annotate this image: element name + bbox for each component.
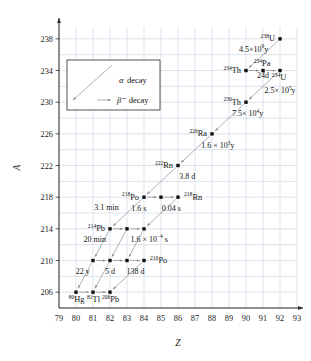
nuclide-label-226Ra: 226Ra — [189, 128, 207, 138]
nuclide-label-81Tl: 81Tl — [87, 294, 101, 304]
half-life-label: 1.6 × 10−4 s — [130, 233, 167, 243]
data-point — [142, 259, 145, 262]
legend: αdecayβ⁻decay — [67, 60, 160, 110]
x-tick-90: 90 — [242, 314, 250, 323]
half-life-label: 22 y — [76, 267, 90, 276]
x-tick-92: 92 — [276, 314, 284, 323]
x-tick-91: 91 — [259, 314, 267, 323]
data-point — [142, 195, 145, 198]
y-tick-218: 218 — [41, 193, 53, 202]
y-tick-214: 214 — [41, 225, 54, 234]
data-point — [91, 259, 94, 262]
x-tick-83: 83 — [123, 314, 131, 323]
legend-alpha-label: αdecay — [119, 75, 148, 85]
y-axis-title: A — [12, 164, 22, 171]
y-tick-226: 226 — [41, 130, 53, 139]
decay-arrow-alpha — [147, 168, 176, 195]
data-point — [74, 290, 77, 293]
half-life-label: 20 min — [83, 235, 105, 244]
nuclide-label-206Pb: 206Pb — [102, 294, 119, 304]
half-life-label: 4.5×109y — [239, 43, 268, 53]
x-tick-81: 81 — [89, 314, 97, 323]
x-tick-85: 85 — [157, 314, 165, 323]
x-tick-87: 87 — [191, 314, 199, 323]
data-point — [244, 69, 247, 72]
nuclide-label-230Th: 230Th — [223, 96, 241, 106]
decay-chain-chart: 2062102142182222262302342387980818283848… — [0, 0, 311, 361]
data-point — [108, 227, 111, 230]
half-life-label: 3.8 d — [179, 172, 195, 181]
data-point — [278, 37, 281, 40]
nuclide-label-80Hg: 80Hg — [69, 294, 85, 304]
y-tick-230: 230 — [41, 98, 53, 107]
x-tick-84: 84 — [140, 314, 149, 323]
data-point — [125, 259, 128, 262]
y-tick-222: 222 — [41, 162, 53, 171]
nuclide-label-222Rn: 222Rn — [155, 160, 174, 170]
x-tick-88: 88 — [208, 314, 216, 323]
data-point — [176, 164, 179, 167]
nuclide-label-214Pb: 214Pb — [88, 223, 105, 233]
x-tick-86: 86 — [174, 314, 182, 323]
half-life-label: 1.6 × 103y — [201, 140, 234, 150]
decay-arrow-alpha — [112, 231, 126, 256]
nuclide-label-234Th: 234Th — [223, 65, 241, 75]
x-tick-79: 79 — [55, 314, 63, 323]
x-tick-89: 89 — [225, 314, 233, 323]
data-point — [176, 195, 179, 198]
half-life-label: 7.5× 104y — [232, 108, 263, 118]
nuclide-label-218Rn: 218Rn — [184, 191, 203, 201]
y-tick-210: 210 — [41, 257, 53, 266]
x-axis-title: Z — [175, 338, 181, 348]
half-life-label: 2.5× 105y — [264, 85, 295, 95]
half-life-label: 0.04 s — [162, 204, 181, 213]
x-tick-82: 82 — [106, 314, 114, 323]
data-point — [142, 227, 145, 230]
half-life-label: 24d — [257, 71, 269, 80]
nuclide-label-218Po: 218Po — [122, 191, 139, 201]
data-point — [244, 100, 247, 103]
nuclide-label-210Po: 210Po — [150, 255, 167, 265]
half-life-label: 1.6 s — [131, 204, 146, 213]
nuclide-label-234Pa: 234Pa — [254, 58, 271, 68]
data-point — [125, 227, 128, 230]
data-point — [108, 259, 111, 262]
y-tick-206: 206 — [41, 288, 53, 297]
x-tick-93: 93 — [293, 314, 301, 323]
half-life-label: 3.1 min — [94, 203, 118, 212]
half-life-label: 138 d — [127, 267, 145, 276]
x-tick-80: 80 — [72, 314, 80, 323]
data-point — [159, 195, 162, 198]
nuclide-label-234U: 234U — [272, 72, 286, 82]
y-tick-238: 238 — [41, 35, 53, 44]
legend-beta-label: β⁻decay — [116, 95, 149, 105]
half-life-label: 5 d — [105, 267, 115, 276]
data-point — [210, 132, 213, 135]
y-tick-234: 234 — [41, 67, 54, 76]
